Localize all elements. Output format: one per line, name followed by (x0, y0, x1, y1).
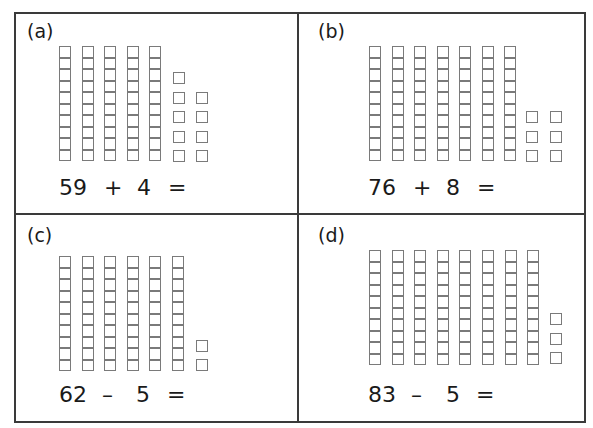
unit-cube (550, 313, 562, 325)
rod-cell (437, 273, 449, 285)
rod-cell (172, 302, 184, 314)
panel-label: (c) (27, 225, 52, 245)
tens-rod (437, 250, 449, 365)
tens-rod (459, 250, 471, 365)
rod-cell (459, 150, 471, 162)
rod-cell (172, 291, 184, 303)
tens-rod (127, 46, 139, 161)
rod-cell (414, 81, 426, 93)
rod-cell (505, 250, 517, 262)
rod-cell (504, 92, 516, 104)
unit-cube (526, 131, 538, 143)
tens-rod (482, 250, 494, 365)
rod-cell (127, 337, 139, 349)
rod-cell (392, 150, 404, 162)
rod-cell (414, 150, 426, 162)
tens-rod (149, 46, 161, 161)
rod-cell (127, 325, 139, 337)
rod-cell (392, 319, 404, 331)
rod-cell (369, 250, 381, 262)
unit-cube (196, 340, 208, 352)
rod-cell (82, 348, 94, 360)
rod-cell (369, 115, 381, 127)
rod-cell (505, 262, 517, 274)
tens-rod (414, 46, 426, 161)
operand-2: 5 (446, 384, 460, 406)
unit-cube (550, 333, 562, 345)
rod-cell (59, 58, 71, 70)
rod-cell (369, 138, 381, 150)
unit-cube (196, 131, 208, 143)
rod-cell (504, 115, 516, 127)
rod-cell (459, 319, 471, 331)
rod-cell (104, 314, 116, 326)
rod-cell (505, 319, 517, 331)
rod-cell (104, 115, 116, 127)
rod-cell (82, 279, 94, 291)
rod-cell (369, 319, 381, 331)
rod-cell (149, 115, 161, 127)
rod-cell (414, 115, 426, 127)
rod-cell (437, 46, 449, 58)
rod-cell (527, 285, 539, 297)
unit-cube (196, 150, 208, 162)
rod-cell (82, 138, 94, 150)
rod-cell (459, 81, 471, 93)
operand-2: 5 (136, 384, 150, 406)
rod-cell (482, 308, 494, 320)
tens-rod (504, 46, 516, 161)
rod-cell (392, 285, 404, 297)
rod-cell (392, 138, 404, 150)
rod-cell (127, 256, 139, 268)
rod-cell (482, 342, 494, 354)
equals-sign: = (476, 384, 494, 406)
rod-cell (505, 331, 517, 343)
rod-cell (82, 268, 94, 280)
unit-cube (196, 359, 208, 371)
rod-cell (437, 81, 449, 93)
rod-cell (82, 325, 94, 337)
rod-cell (104, 58, 116, 70)
rod-cell (82, 150, 94, 162)
rod-cell (414, 127, 426, 139)
rod-cell (59, 46, 71, 58)
unit-cube (550, 352, 562, 364)
rod-cell (82, 69, 94, 81)
rod-cell (369, 342, 381, 354)
rod-cell (172, 279, 184, 291)
rod-cell (149, 81, 161, 93)
rod-cell (482, 92, 494, 104)
rod-cell (437, 308, 449, 320)
rod-cell (59, 104, 71, 116)
rod-cell (369, 296, 381, 308)
rod-cell (437, 342, 449, 354)
rod-cell (414, 331, 426, 343)
rod-cell (172, 314, 184, 326)
rod-cell (392, 331, 404, 343)
rod-cell (127, 291, 139, 303)
rod-cell (149, 150, 161, 162)
rod-cell (459, 262, 471, 274)
rod-cell (392, 308, 404, 320)
rod-cell (527, 308, 539, 320)
horizontal-divider (14, 213, 584, 215)
unit-cube (526, 111, 538, 123)
tens-rod (104, 46, 116, 161)
rod-cell (369, 262, 381, 274)
rod-cell (437, 138, 449, 150)
rod-cell (82, 115, 94, 127)
rod-cell (127, 92, 139, 104)
rod-cell (482, 104, 494, 116)
tens-rod (82, 256, 94, 371)
rod-cell (392, 262, 404, 274)
rod-cell (414, 273, 426, 285)
rod-cell (505, 342, 517, 354)
rod-cell (527, 262, 539, 274)
rod-cell (414, 319, 426, 331)
rod-cell (104, 256, 116, 268)
rod-cell (127, 46, 139, 58)
rod-cell (414, 69, 426, 81)
rod-cell (459, 308, 471, 320)
rod-cell (482, 46, 494, 58)
rod-cell (104, 348, 116, 360)
